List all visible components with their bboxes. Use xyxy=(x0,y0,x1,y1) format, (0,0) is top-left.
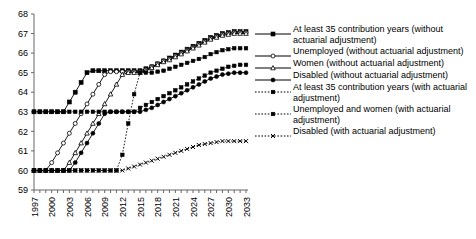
legend-item: Disabled (without actuarial adjustment) xyxy=(253,70,475,81)
legend-marker-open-triangle-icon xyxy=(253,59,293,69)
x-tick-label: 2015 xyxy=(136,197,146,217)
legend-item: Women (without actuarial adjustment) xyxy=(253,58,475,69)
y-tick-label: 63 xyxy=(18,107,28,117)
legend-label: Unemployed and women (with actuarial adj… xyxy=(293,104,475,125)
x-tick-label: 2024 xyxy=(189,197,199,217)
x-tick-label: 1997 xyxy=(30,197,40,217)
y-tick-label: 68 xyxy=(18,9,28,19)
x-tick-label: 2018 xyxy=(153,197,163,217)
y-tick-label: 64 xyxy=(18,87,28,97)
y-tick-label: 65 xyxy=(18,68,28,78)
x-tick-label: 2003 xyxy=(65,197,75,217)
legend-label: At least 35 contribution years (with act… xyxy=(293,82,475,103)
x-tick-label: 2030 xyxy=(224,197,234,217)
y-tick-label: 59 xyxy=(18,185,28,195)
series-3 xyxy=(32,71,248,173)
legend-item: At least 35 contribution years (without … xyxy=(253,24,475,45)
y-tick-label: 66 xyxy=(18,48,28,58)
legend-marker-dotted-cross-icon xyxy=(253,127,293,137)
y-tick-label: 61 xyxy=(18,146,28,156)
legend-label: Disabled (without actuarial adjustment) xyxy=(293,70,475,81)
x-tick-label: 2027 xyxy=(206,197,216,217)
legend-item: Unemployed and women (with actuarial adj… xyxy=(253,104,475,125)
legend-marker-dotted-square-icon xyxy=(253,83,293,93)
y-tick-label: 62 xyxy=(18,127,28,137)
y-tick-label: 67 xyxy=(18,29,28,39)
x-tick-label: 2000 xyxy=(47,197,57,217)
legend-label: At least 35 contribution years (without … xyxy=(293,24,475,45)
legend-label: Women (without actuarial adjustment) xyxy=(293,58,475,69)
x-tick-label: 2009 xyxy=(100,197,110,217)
legend-label: Disabled (with actuarial adjustment) xyxy=(293,126,475,137)
chart-container: 5960616263646566676819972000200320062009… xyxy=(0,0,476,239)
legend-marker-dotted-square-icon xyxy=(253,105,293,115)
x-tick-label: 2006 xyxy=(83,197,93,217)
legend-marker-filled-circle-icon xyxy=(253,71,293,81)
legend-marker-open-circle-icon xyxy=(253,47,293,57)
legend-item: At least 35 contribution years (with act… xyxy=(253,82,475,103)
legend-item: Unemployed (without actuarial adjustment… xyxy=(253,46,475,57)
x-tick-label: 2033 xyxy=(242,197,252,217)
legend-label: Unemployed (without actuarial adjustment… xyxy=(293,46,475,57)
x-tick-label: 2012 xyxy=(118,197,128,217)
legend-marker-filled-square-icon xyxy=(253,25,293,35)
x-tick-label: 2021 xyxy=(171,197,181,217)
legend-item: Disabled (with actuarial adjustment) xyxy=(253,126,475,137)
y-tick-label: 60 xyxy=(18,166,28,176)
chart-legend: At least 35 contribution years (without … xyxy=(253,24,475,138)
